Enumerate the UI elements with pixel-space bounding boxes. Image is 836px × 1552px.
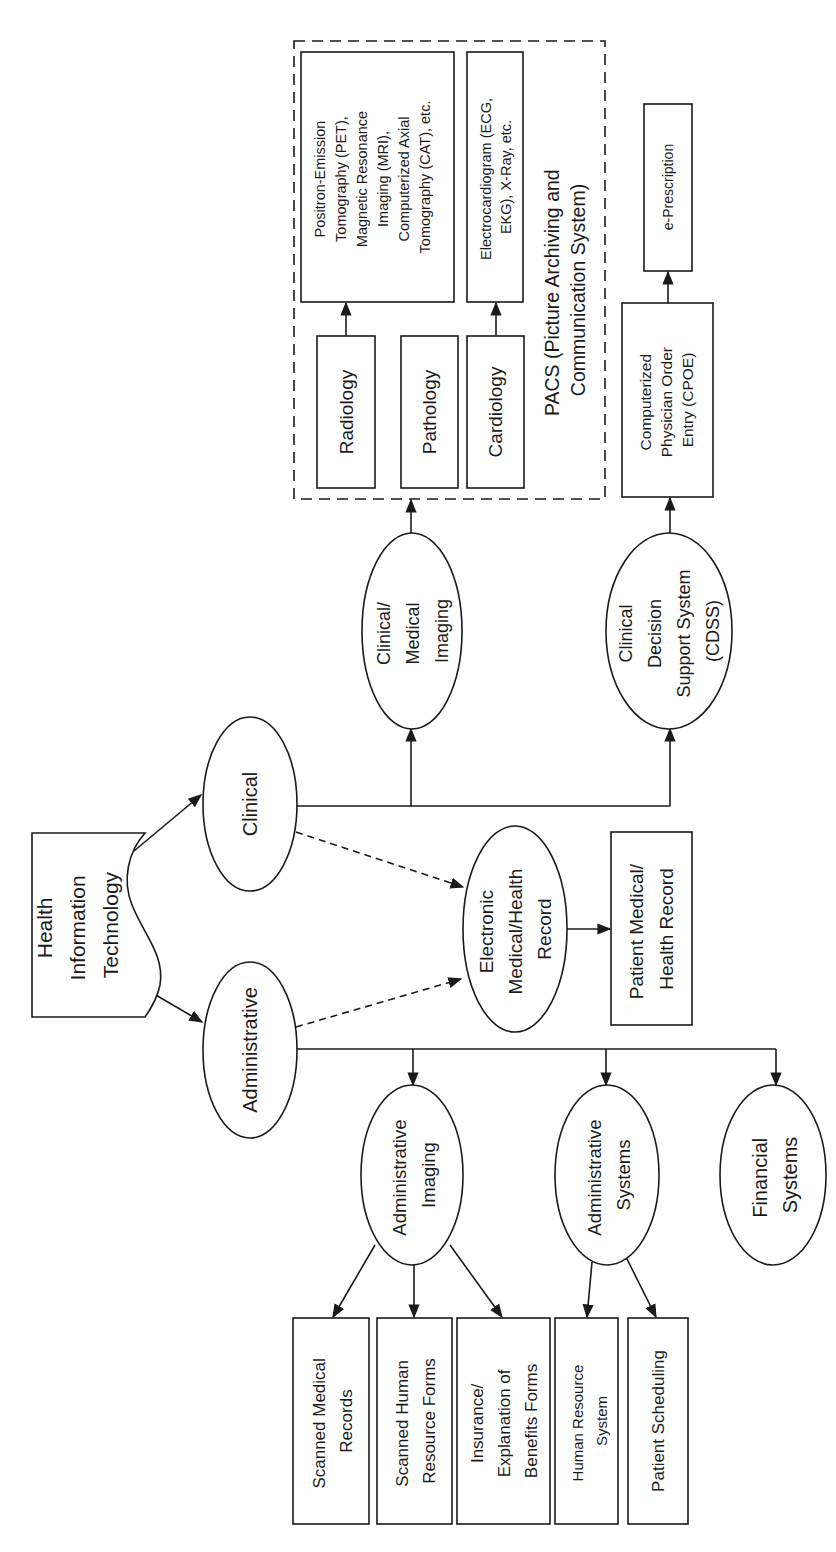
label-line: Tomography (PET),: [333, 116, 349, 242]
edge-admin-imaging-insurance: [450, 1245, 502, 1317]
svg-text:Clinical: Clinical: [239, 772, 261, 836]
node-administrative-systems: Administrative Systems: [555, 1085, 659, 1265]
svg-text:Insurance/ Explanation o: Insurance/ Explanation of Benefits Forms: [468, 1364, 541, 1478]
node-administrative-imaging: Administrative Imaging: [361, 1085, 463, 1265]
svg-text:Patient Scheduling: Patient Scheduling: [649, 1350, 668, 1492]
modality-ecg-box: Electrocardiogram (ECG, EKG), X-Ray, etc…: [467, 52, 523, 302]
edge-hit-clinical: [134, 795, 201, 851]
box-scanned-hr-forms: Scanned Human Resource Forms: [377, 1318, 452, 1524]
department-radiology: Radiology: [317, 336, 375, 488]
label-line: Positron-Emission: [312, 121, 328, 238]
box-scanned-medical-records: Scanned Medical Records: [293, 1318, 369, 1524]
department-pathology: Pathology: [401, 336, 458, 488]
svg-text:Administrative: Administrative: [239, 987, 261, 1113]
label-line: Magnetic Resonance: [354, 111, 370, 247]
node-financial-systems: Financial Systems: [720, 1085, 826, 1265]
cpoe-box: Computerized Physician Order Entry (CPOE…: [622, 303, 713, 497]
edge-administrative-ehr: [296, 979, 461, 1027]
health-it-diagram: Positron-Emission Tomography (PET), Magn…: [0, 0, 836, 1552]
node-health-information-technology: Health Information Technology: [32, 833, 161, 1017]
eprescription-box: e-Prescription: [644, 104, 692, 271]
node-administrative: Administrative: [203, 962, 297, 1138]
label-line: EKG), X-Ray, etc.: [498, 120, 514, 234]
edge-admin-imaging-scanned-medical: [333, 1245, 375, 1317]
modality-imaging-box: Positron-Emission Tomography (PET), Magn…: [301, 52, 454, 302]
label-line: Imaging (MRI),: [375, 131, 391, 227]
node-patient-record: Patient Medical/ Health Record: [611, 832, 692, 1025]
box-patient-scheduling: Patient Scheduling: [628, 1318, 688, 1524]
node-ehr: Electronic Medical/Health Record: [463, 826, 567, 1032]
svg-text:Cardiology: Cardiology: [485, 366, 506, 457]
label-line: Electrocardiogram (ECG,: [478, 98, 494, 260]
svg-text:Computerized Physician O: Computerized Physician Order Entry (CPOE…: [637, 343, 696, 458]
box-hr-system: Human Resource System: [555, 1318, 618, 1524]
department-cardiology: Cardiology: [467, 336, 524, 488]
svg-text:e-Prescription: e-Prescription: [660, 144, 676, 230]
edge-hit-administrative: [154, 994, 202, 1022]
node-clinical-medical-imaging: Clinical/ Medical Imaging: [362, 533, 462, 729]
box-insurance-eob-forms: Insurance/ Explanation of Benefits Forms: [457, 1318, 550, 1524]
label-line: Computerized Axial: [396, 117, 412, 242]
edge-admin-systems-hr-system: [587, 1262, 592, 1317]
svg-text:Radiology: Radiology: [336, 369, 357, 454]
node-clinical: Clinical: [203, 717, 297, 891]
edge-admin-systems-scheduling: [625, 1255, 656, 1317]
svg-text:Pathology: Pathology: [419, 369, 440, 454]
pacs-label: PACS (Picture Archiving and Communicatio…: [541, 164, 589, 416]
node-cdss: Clinical Decision Support System (CDSS): [606, 533, 732, 729]
edge-clinical-ehr: [296, 832, 463, 887]
label-line: Tomography (CAT), etc.: [417, 101, 433, 254]
svg-text:Clinical/ Medical: Clinical/ Medical Imaging: [374, 597, 452, 665]
